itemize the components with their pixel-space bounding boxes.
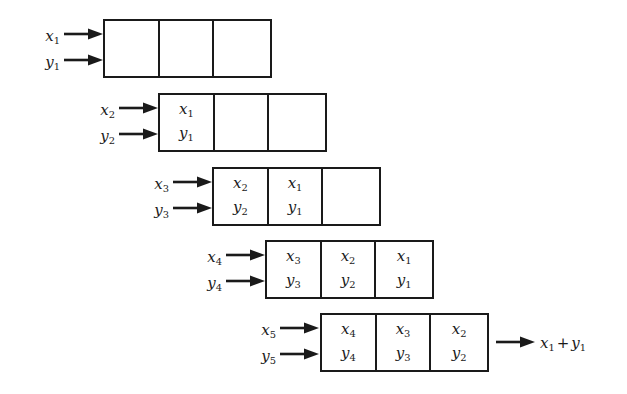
cell-top-term: x1 (288, 176, 303, 193)
stage-3-cell-1: x1 y1 (269, 169, 324, 224)
stage-2-cell-0: x1 y1 (160, 95, 215, 150)
cell-top-term: x2 (341, 249, 356, 266)
cell-top-term: x4 (341, 322, 356, 339)
stage-2-input-label-x: x2 (83, 101, 115, 120)
stage-5-input-arrow-y (280, 347, 320, 361)
stage-4-input-arrow-x (226, 248, 266, 262)
stage-5-input-label-y: y5 (244, 347, 276, 366)
stage-5-output-label: x1+y1 (540, 334, 586, 353)
cell-top-term: x3 (396, 322, 411, 339)
stage-5-cell-1: x3 y3 (377, 315, 432, 370)
cell-top-term: x1 (397, 249, 412, 266)
stage-3-input-label-x: x3 (137, 175, 169, 194)
cell-top-term: x2 (233, 176, 248, 193)
stage-2-input-label-y: y2 (83, 127, 115, 146)
stage-5-input-label-x: x5 (244, 321, 276, 340)
stage-1-cell-1 (160, 21, 215, 76)
stage-1-cell-0 (105, 21, 160, 76)
stage-4-cell-1: x2 y2 (322, 242, 377, 297)
diagram-canvas: x1 y1 (0, 0, 627, 394)
stage-5-output-arrow (496, 335, 536, 349)
stage-4-register: x3 y3 x2 y2 x1 y1 (265, 240, 434, 299)
stage-4-input-arrow-y (226, 274, 266, 288)
output-operator: + (555, 334, 572, 352)
stage-1-input-label-x: x1 (28, 27, 60, 46)
cell-bottom-term: y1 (288, 200, 303, 217)
stage-4-input-label-y: y4 (190, 274, 222, 293)
cell-bottom-term: y1 (179, 126, 194, 143)
cell-bottom-term: y3 (286, 273, 301, 290)
cell-bottom-term: y2 (233, 200, 248, 217)
stage-2-register: x1 y1 (158, 93, 327, 152)
stage-5-register: x4 y4 x3 y3 x2 y2 (320, 313, 489, 372)
stage-3-input-arrow-x (173, 175, 213, 189)
stage-2-cell-2 (269, 95, 325, 150)
stage-1-input-arrow-y (64, 53, 104, 67)
stage-3-cell-0: x2 y2 (214, 169, 269, 224)
stage-5-cell-0: x4 y4 (322, 315, 377, 370)
cell-bottom-term: y1 (397, 273, 412, 290)
stage-1-register (103, 19, 272, 78)
cell-bottom-term: y3 (396, 346, 411, 363)
stage-1-input-label-y: y1 (28, 53, 60, 72)
stage-3-register: x2 y2 x1 y1 (212, 167, 381, 226)
stage-3-input-arrow-y (173, 201, 213, 215)
cell-bottom-term: y4 (341, 346, 356, 363)
stage-3-cell-2 (323, 169, 379, 224)
stage-5-cell-2: x2 y2 (431, 315, 487, 370)
cell-top-term: x3 (286, 249, 301, 266)
cell-top-term: x1 (179, 102, 194, 119)
stage-1-input-arrow-x (64, 27, 104, 41)
stage-4-input-label-x: x4 (190, 248, 222, 267)
stage-2-input-arrow-x (119, 101, 159, 115)
cell-bottom-term: y2 (452, 346, 467, 363)
stage-5-input-arrow-x (280, 321, 320, 335)
cell-top-term: x2 (452, 322, 467, 339)
stage-2-cell-1 (215, 95, 270, 150)
stage-2-input-arrow-y (119, 127, 159, 141)
stage-4-cell-2: x1 y1 (376, 242, 432, 297)
stage-4-cell-0: x3 y3 (267, 242, 322, 297)
stage-1-cell-2 (214, 21, 270, 76)
stage-3-input-label-y: y3 (137, 201, 169, 220)
cell-bottom-term: y2 (341, 273, 356, 290)
